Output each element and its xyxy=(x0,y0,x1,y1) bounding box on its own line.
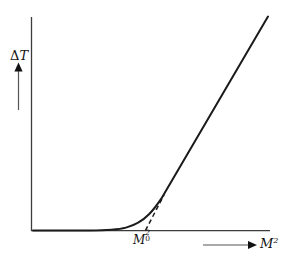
x-axis-exponent: 2 xyxy=(273,236,278,245)
plot-canvas xyxy=(0,0,282,259)
linear-extrapolation-dashed-line xyxy=(146,195,165,230)
y-axis-delta-symbol: Δ xyxy=(10,48,19,63)
figure-container: ΔT M2 M20 xyxy=(0,0,282,259)
heating-curve xyxy=(33,17,268,231)
threshold-variable: M xyxy=(133,233,145,247)
y-axis-label: ΔT xyxy=(10,49,28,62)
y-axis-variable: T xyxy=(19,48,28,63)
up-arrow-icon xyxy=(14,63,22,72)
x-axis-label: M2 xyxy=(260,237,278,250)
threshold-subscript: 0 xyxy=(145,235,150,242)
right-arrow-icon xyxy=(248,241,257,249)
threshold-label: M20 xyxy=(133,232,153,246)
x-axis-variable: M xyxy=(260,236,273,251)
threshold-script-stack: 20 xyxy=(145,232,152,244)
